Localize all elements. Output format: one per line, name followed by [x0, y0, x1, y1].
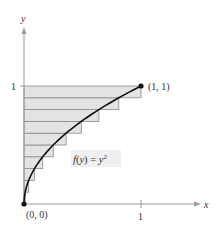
rectangle [24, 145, 53, 157]
y-tick-label: 1 [11, 81, 16, 92]
point-one-one [138, 83, 143, 88]
x-axis-arrow-icon [194, 202, 201, 207]
function-label: f(y) = y2 [73, 153, 107, 166]
origin-label: (0, 0) [26, 209, 48, 221]
rectangle [24, 98, 119, 110]
y-axis-arrow-icon [22, 27, 27, 34]
rectangle [24, 110, 99, 122]
x-axis-label: x [203, 199, 209, 210]
riemann-sum-diagram: y x 1 1 (0, 0) (1, 1) f(y) = y2 [0, 0, 219, 227]
x-tick-label: 1 [138, 211, 143, 222]
point-label: (1, 1) [148, 81, 170, 93]
point-origin [21, 201, 26, 206]
rectangle [24, 157, 43, 169]
y-axis-label: y [20, 13, 26, 24]
rectangles [24, 86, 141, 204]
function-exponent: 2 [103, 153, 107, 161]
